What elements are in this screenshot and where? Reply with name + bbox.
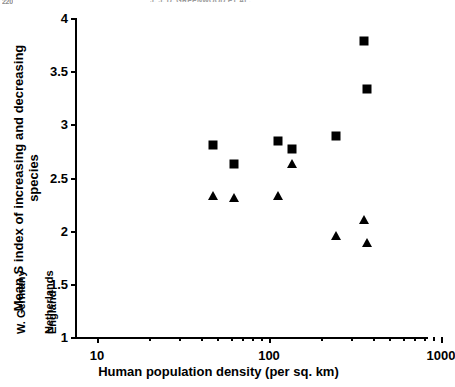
plot-area: 11.522.533.54 101001000 R. of IrelandSco…: [75, 18, 428, 338]
x-tick-minor: [217, 337, 219, 341]
data-point-square: [230, 159, 239, 168]
x-tick-label: 10: [90, 348, 104, 363]
y-tick-label: 3.5: [50, 64, 68, 79]
data-point-square: [208, 140, 217, 149]
x-tick-minor: [414, 337, 416, 341]
y-tick-label: 2.5: [50, 170, 68, 185]
x-tick-minor: [389, 337, 391, 341]
x-tick-major: [97, 337, 99, 343]
data-point-triangle: [208, 191, 218, 200]
y-tick-label: 2: [61, 223, 68, 238]
category-label: England: [47, 291, 363, 334]
y-tick-mark: [71, 231, 76, 233]
y-tick-mark: [71, 124, 76, 126]
x-tick-major: [441, 337, 443, 343]
data-point-square: [359, 37, 368, 46]
y-tick-label: 3: [61, 117, 68, 132]
x-tick-minor: [261, 337, 263, 341]
data-point-square: [363, 85, 372, 94]
data-point-triangle: [273, 191, 283, 200]
data-point-triangle: [331, 231, 341, 240]
data-point-square: [287, 144, 296, 153]
x-tick-minor: [149, 337, 151, 341]
page-number-cropped: 220: [2, 0, 13, 4]
data-point-triangle: [229, 193, 239, 202]
x-tick-minor: [424, 337, 426, 341]
x-tick-minor: [242, 337, 244, 341]
x-tick-minor: [321, 337, 323, 341]
x-tick-label: 1000: [427, 348, 455, 363]
running-head-cropped: J. J. D. GREENWOOD ET AL.: [150, 0, 251, 2]
y-axis-title-line2: species: [26, 154, 41, 202]
x-tick-major: [269, 337, 271, 343]
x-tick-minor: [351, 337, 353, 341]
y-tick-mark: [71, 18, 76, 20]
data-point-square: [332, 132, 341, 141]
y-tick-mark: [71, 178, 76, 180]
x-tick-minor: [373, 337, 375, 341]
data-point-triangle: [362, 238, 372, 247]
x-axis-title: Human population density (per sq. km): [0, 364, 437, 379]
data-point-triangle: [359, 215, 369, 224]
data-point-triangle: [287, 159, 297, 168]
x-tick-minor: [201, 337, 203, 341]
y-tick-mark: [71, 337, 76, 339]
x-tick-minor: [252, 337, 254, 341]
x-tick-minor: [179, 337, 181, 341]
x-tick-minor: [231, 337, 233, 341]
y-tick-label: 4: [61, 11, 68, 26]
data-point-square: [274, 137, 283, 146]
x-tick-minor: [403, 337, 405, 341]
x-tick-label: 100: [258, 348, 280, 363]
x-tick-minor: [433, 337, 435, 341]
y-tick-mark: [71, 71, 76, 73]
